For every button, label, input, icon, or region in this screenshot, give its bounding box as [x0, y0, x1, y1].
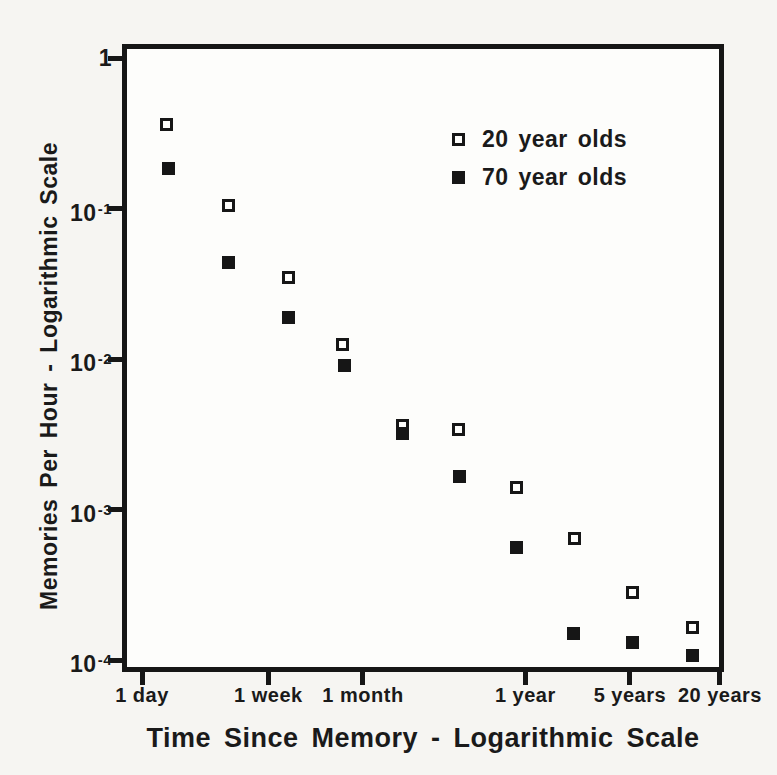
y-tick-label: 1 — [14, 42, 112, 74]
y-tick-base: 1 — [99, 45, 112, 71]
x-tick-label: 1 week — [198, 684, 338, 707]
y-tick-label: 10-4 — [14, 644, 112, 676]
x-tick-label: 20 years — [650, 684, 777, 707]
legend-item-20-year-olds: 20 year olds — [452, 125, 627, 153]
y-tick-base: 10 — [70, 350, 97, 376]
y-tick-base: 10 — [70, 501, 97, 527]
y-tick-label: 10-1 — [14, 193, 112, 225]
y-tick-exponent: -1 — [98, 200, 112, 217]
legend: 20 year olds 70 year olds — [452, 125, 627, 201]
y-tick-label: 10-2 — [14, 343, 112, 375]
y-axis-title: Memories Per Hour - Logarithmic Scale — [36, 142, 63, 610]
filled-square-icon — [452, 171, 465, 184]
x-tick-label: 1 year — [455, 684, 595, 707]
y-tick-exponent: -3 — [98, 501, 112, 518]
plot-area — [122, 44, 724, 672]
y-axis-tick — [108, 658, 122, 663]
legend-label: 20 year olds — [482, 126, 627, 153]
retention-scatter-figure: 1 day1 week1 month1 year5 years20 years1… — [0, 0, 777, 775]
open-square-icon — [452, 133, 465, 146]
y-axis-tick — [108, 357, 122, 362]
y-tick-label: 10-3 — [14, 494, 112, 526]
y-axis-tick — [108, 507, 122, 512]
x-axis-title: Time Since Memory - Logarithmic Scale — [122, 723, 724, 754]
y-tick-base: 10 — [70, 651, 97, 677]
x-tick-label: 1 day — [72, 684, 212, 707]
legend-label: 70 year olds — [482, 164, 627, 191]
y-tick-exponent: -2 — [98, 350, 112, 367]
y-axis-tick — [108, 206, 122, 211]
y-axis-tick — [108, 56, 122, 61]
legend-item-70-year-olds: 70 year olds — [452, 163, 627, 191]
y-tick-base: 10 — [70, 200, 97, 226]
x-tick-label: 5 years — [560, 684, 700, 707]
y-tick-exponent: -4 — [98, 651, 112, 668]
x-tick-label: 1 month — [293, 684, 433, 707]
